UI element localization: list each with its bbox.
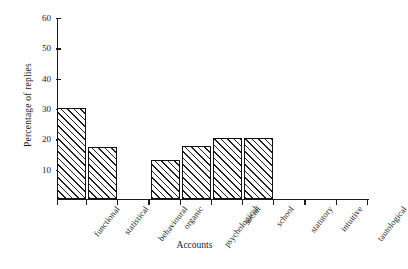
y-tick-label: 30 (42, 104, 51, 114)
x-tick-label-statutory: statutory (308, 204, 335, 235)
bar-functional (57, 108, 86, 199)
y-axis-title: Percentage of replies (23, 30, 33, 180)
y-tick-label: 60 (42, 13, 51, 23)
bar-school (244, 138, 273, 199)
bar-statistical (88, 147, 117, 199)
bar-organic (151, 160, 180, 199)
x-tick-label-intuitive: intuitive (339, 204, 365, 233)
y-tick-label: 20 (42, 134, 51, 144)
y-tick-label: 40 (42, 74, 51, 84)
x-tick-label-tautological: tautological (375, 204, 408, 243)
y-tick-label: 50 (42, 43, 51, 53)
bar-series (57, 18, 369, 199)
x-tick-label-social: social (242, 204, 263, 226)
y-tick-label: 10 (42, 165, 51, 175)
plot-area: 102030405060 (57, 18, 369, 200)
x-tick-label-functional: functional (92, 204, 122, 238)
x-tick-label-statistical: statistical (122, 204, 151, 237)
x-axis-title: Accounts (0, 240, 389, 250)
bar-social (213, 138, 242, 199)
bar-psychological (182, 146, 211, 199)
x-tick-label-school: school (274, 204, 296, 228)
